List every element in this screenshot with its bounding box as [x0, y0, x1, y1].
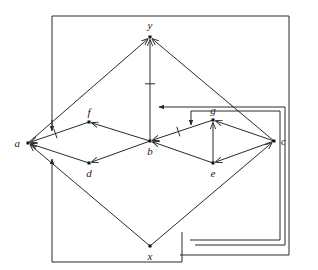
node-a: a [15, 137, 30, 149]
node-g: g [210, 104, 216, 122]
node-dot-x [149, 245, 152, 248]
edge-b-d [92, 141, 150, 162]
edge-c-g [216, 121, 274, 141]
node-dot-g [212, 119, 215, 122]
node-label-f: f [87, 106, 92, 118]
node-label-d: d [86, 167, 92, 179]
node-dot-c [273, 140, 276, 143]
node-label-g: g [210, 104, 216, 116]
edge-x-c [150, 143, 272, 246]
wire-loop-to-g-b [190, 111, 280, 240]
graph-diagram: yafbdgecx [0, 0, 318, 270]
edge-c-e [216, 141, 274, 162]
node-dot-f [88, 121, 91, 124]
edge-g-b [153, 120, 213, 140]
node-label-y: y [147, 19, 153, 31]
node-y: y [147, 19, 153, 39]
node-d: d [86, 162, 92, 180]
edge-f-a [31, 122, 89, 142]
edge-a-y [28, 39, 148, 143]
node-dot-b [149, 140, 152, 143]
node-x: x [147, 245, 153, 263]
node-dot-d [88, 162, 91, 165]
node-label-x: x [147, 250, 153, 262]
node-label-a: a [15, 137, 21, 149]
node-label-e: e [211, 167, 216, 179]
node-dot-e [212, 162, 215, 165]
node-c: c [273, 135, 287, 147]
node-label-c: c [281, 135, 286, 147]
wire-outer-loop [52, 16, 289, 255]
wires [52, 16, 289, 262]
node-e: e [211, 162, 216, 180]
node-label-b: b [147, 145, 153, 157]
edge-b-f [92, 123, 150, 141]
edge-x-a [30, 145, 150, 246]
node-f: f [87, 106, 92, 124]
edge-e-b [153, 142, 213, 163]
edge-d-a [31, 144, 89, 163]
wire-loop-to-b-y [159, 107, 285, 245]
wire-bottom-left-loop [52, 159, 182, 262]
node-dot-y [149, 36, 152, 39]
node-dot-a [27, 142, 30, 145]
